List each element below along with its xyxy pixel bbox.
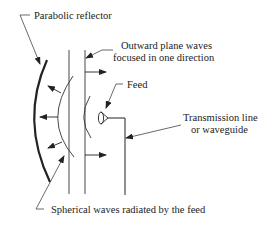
spherical-arrow-lower	[48, 142, 62, 148]
label-transmission-line1: Transmission line	[183, 112, 258, 123]
label-plane-waves-line2: focused in one direction	[113, 52, 215, 63]
transmission-line-leader	[126, 125, 181, 138]
label-parabolic-reflector: Parabolic reflector	[34, 10, 112, 21]
transmission-line	[108, 118, 125, 195]
label-spherical-waves: Spherical waves radiated by the feed	[51, 204, 206, 215]
plane-waves-leader	[86, 50, 113, 58]
label-feed: Feed	[127, 79, 148, 90]
spherical-waves-leader	[36, 156, 64, 209]
parabolic-reflector-curve	[34, 60, 50, 182]
feed-leader	[106, 84, 123, 108]
label-transmission-line2: or waveguide	[191, 124, 248, 135]
spherical-wave-arc-outer	[58, 76, 74, 157]
antenna-diagram: Parabolic reflector Outward plane waves …	[0, 0, 272, 227]
reflector-leader	[20, 15, 40, 64]
spherical-arrow-upper	[48, 86, 61, 93]
label-plane-waves-line1: Outward plane waves	[121, 40, 212, 51]
